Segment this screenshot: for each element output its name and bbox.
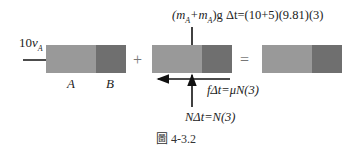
impulse-block — [152, 45, 232, 73]
final-block-b — [312, 45, 342, 73]
weight-impulse-label: (mA+mA)g Δt=(10+5)(9.81)(3) — [172, 9, 323, 25]
label-a: A — [67, 77, 75, 90]
normal-impulse-label: NΔt=N(3) — [185, 111, 236, 124]
block-b — [96, 45, 126, 73]
block-a — [46, 45, 96, 73]
friction-impulse-label: fΔt=μN(3) — [207, 84, 259, 97]
label-b: B — [106, 77, 114, 90]
final-block — [262, 45, 342, 73]
figure-caption: 圖 4-3.2 — [156, 133, 196, 145]
initial-block — [46, 45, 126, 73]
plus-operator: + — [133, 52, 142, 68]
impulse-block-b — [202, 45, 232, 73]
impulse-block-a — [152, 45, 202, 73]
equals-operator: = — [240, 52, 249, 68]
final-block-a — [262, 45, 312, 73]
momentum-label: 10vA — [19, 36, 43, 53]
